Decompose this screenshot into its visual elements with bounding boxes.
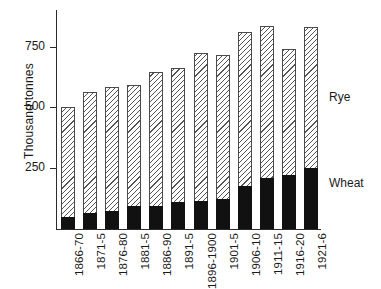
bar-stack: [105, 87, 119, 229]
bar-segment-wheat: [83, 213, 97, 229]
bar-stack: [238, 32, 252, 229]
x-axis-tick-label: 1886-90: [161, 233, 173, 276]
bar-segment-wheat: [260, 178, 274, 229]
y-axis-tick-label: 500: [25, 99, 45, 113]
bar-stack: [282, 49, 296, 229]
y-axis-tick-label: 250: [25, 160, 45, 174]
bar-segment-rye: [105, 87, 119, 229]
bar-stack: [83, 92, 97, 229]
bar-segment-wheat: [61, 217, 75, 229]
bar-segment-wheat: [194, 201, 208, 229]
bar-stack: [304, 27, 318, 229]
bar-segment-wheat: [127, 206, 141, 229]
x-axis-tick-label: 1906-10: [250, 233, 262, 276]
bar-segment-wheat: [304, 168, 318, 229]
legend-label-wheat: Wheat: [329, 176, 364, 190]
x-axis-tick-label: 1901-5: [228, 233, 240, 269]
x-axis-tick-label: 1866-70: [73, 233, 85, 276]
bar-stack: [194, 53, 208, 229]
x-axis-line: [56, 229, 321, 230]
bar-segment-wheat: [171, 202, 185, 229]
bar-segment-wheat: [149, 206, 163, 229]
x-axis-tick-label: 1921-6: [316, 233, 328, 269]
x-axis-tick-label: 1896-1900: [206, 233, 218, 289]
bar-segment-rye: [61, 107, 75, 229]
x-axis-tick-label: 1891-5: [183, 233, 195, 269]
bar-segment-wheat: [282, 175, 296, 229]
x-axis-tick-label: 1911-15: [272, 233, 284, 275]
bar-segment-wheat: [105, 211, 119, 229]
x-axis-tick-label: 1916-20: [294, 233, 306, 276]
plot-area: [56, 10, 321, 229]
bar-segment-rye: [83, 92, 97, 229]
bar-segment-wheat: [216, 199, 230, 229]
legend-label-rye: Rye: [329, 90, 350, 104]
bar-stack: [216, 55, 230, 229]
bar-stack: [127, 85, 141, 229]
bar-stack: [149, 72, 163, 229]
bar-segment-wheat: [238, 186, 252, 229]
bar-chart: Thousand tonnes 250500750 1866-701871-51…: [0, 0, 381, 289]
y-axis-tick-label: 750: [25, 39, 45, 53]
x-axis-tick-label: 1881-5: [139, 233, 151, 269]
bar-stack: [61, 107, 75, 229]
bar-stack: [260, 26, 274, 229]
x-axis-tick-label: 1871-5: [95, 233, 107, 269]
x-axis-tick-label: 1876-80: [117, 233, 129, 276]
bar-stack: [171, 68, 185, 229]
